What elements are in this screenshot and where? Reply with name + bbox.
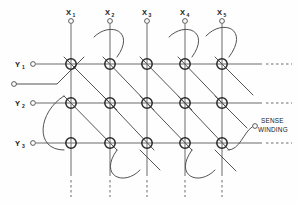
sense-lead-in-left (16, 57, 84, 84)
y2-terminal[interactable] (31, 101, 36, 106)
y-drive-line-y1[interactable]: Y 1 (15, 60, 292, 70)
sense-uturn-top-c5 (206, 27, 237, 57)
x2-terminal[interactable] (108, 19, 113, 24)
y-drive-line-group: Y 1 Y 2 Y 3 (15, 60, 292, 149)
sense-diag-c2 (140, 96, 192, 150)
x5-terminal[interactable] (220, 19, 225, 24)
sense-lead-out-right (228, 127, 252, 150)
sense-diag-e2 (215, 96, 247, 128)
y2-label: Y (15, 99, 20, 108)
sense-winding-label-line2: WINDING (258, 126, 288, 133)
sense-winding-terminal-left[interactable] (12, 82, 17, 87)
x1-terminal[interactable] (69, 19, 74, 24)
y3-label-subscript: 3 (22, 143, 25, 149)
sense-diag-e3 (215, 150, 236, 171)
y1-terminal[interactable] (31, 62, 36, 67)
sense-uturn-bottom-c4 (185, 150, 215, 178)
sense-winding-annotation: SENSE WINDING (258, 117, 288, 133)
y3-terminal[interactable] (31, 141, 36, 146)
sense-diag-e1 (215, 57, 253, 95)
x2-label-subscript: 2 (112, 12, 115, 18)
sense-diag-d2 (178, 96, 229, 150)
sense-uturn-top-c2 (94, 29, 124, 57)
sense-diag-b2 (103, 96, 154, 150)
y-drive-line-y3[interactable]: Y 3 (15, 139, 292, 149)
y3-label: Y (15, 139, 20, 148)
x5-label: X (217, 8, 222, 17)
x3-label-subscript: 3 (149, 12, 152, 18)
sense-uturn-left (43, 96, 64, 150)
y1-label-subscript: 1 (22, 64, 25, 70)
x2-label: X (105, 8, 110, 17)
sense-diag-a2 (64, 96, 117, 150)
sense-winding-terminal-right[interactable] (253, 124, 258, 129)
y2-label-subscript: 2 (22, 103, 25, 109)
sense-diag-c3 (140, 150, 160, 170)
x4-terminal[interactable] (183, 19, 188, 24)
diagram-canvas: Y 1 Y 2 Y 3 (0, 0, 298, 205)
x1-label: X (66, 8, 71, 17)
x3-terminal[interactable] (145, 19, 150, 24)
sense-uturn-bottom-c2 (110, 150, 140, 178)
x4-label-subscript: 4 (187, 12, 190, 18)
x5-label-subscript: 5 (224, 12, 227, 18)
x3-label: X (142, 8, 147, 17)
y1-label: Y (15, 60, 20, 69)
sense-uturn-top-c4 (169, 29, 199, 57)
x4-label: X (180, 8, 185, 17)
y-drive-line-y2[interactable]: Y 2 (15, 99, 292, 109)
core-memory-diagram: Y 1 Y 2 Y 3 (0, 0, 298, 205)
sense-winding-label-line1: SENSE (261, 117, 284, 124)
x1-label-subscript: 1 (73, 12, 76, 18)
